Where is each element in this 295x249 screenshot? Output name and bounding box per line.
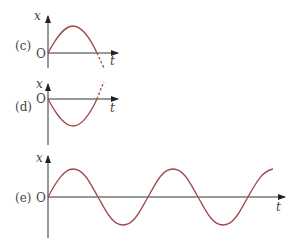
origin-label: O [36,191,46,205]
panel-c: x t O (c) [15,9,118,68]
t-axis-label: t [110,54,115,68]
panel-label: (e) [15,191,31,205]
t-axis-label: t [110,101,115,115]
panel-d: x t O (d) [15,77,118,145]
panel-e: x t O (e) [15,151,285,238]
origin-label: O [36,47,46,61]
dashed-continuation [97,53,104,68]
dashed-continuation [97,82,104,99]
y-axis-label: x [36,77,43,91]
panel-label: (d) [15,100,32,114]
t-axis-label: t [276,200,281,214]
panel-label: (c) [15,39,31,53]
y-axis-label: x [36,151,43,165]
sine-curve [48,26,97,53]
y-axis-label: x [34,9,41,23]
oscillation-diagram: x t O (c) x t O (d) x t O (e) [0,0,295,249]
origin-label: O [36,92,46,106]
sine-curve [48,99,97,126]
